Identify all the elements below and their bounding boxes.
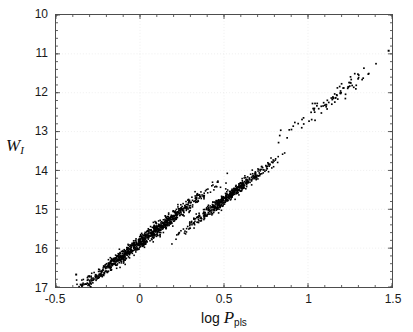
x-tick-label: 0.5	[216, 293, 233, 305]
x-axis-log-prefix: log	[201, 310, 224, 326]
x-tick-label: 1.5	[385, 293, 402, 305]
x-axis-subscript: pls	[234, 317, 247, 328]
y-tick-label: 10	[0, 8, 48, 20]
x-axis-symbol: P	[224, 308, 234, 327]
y-axis-label: WI	[6, 137, 24, 156]
x-axis-label: log Ppls	[201, 309, 247, 328]
y-axis-subscript: I	[20, 144, 24, 156]
x-tick-label: -0.5	[45, 293, 66, 305]
y-tick-label: 15	[0, 204, 48, 216]
data-points-layer	[56, 15, 392, 287]
plot-axes-box	[55, 14, 393, 288]
x-tick-label: 0	[136, 293, 143, 305]
y-tick-label: 11	[0, 47, 48, 59]
scatter-plot-figure: 1011121314151617 -0.500.511.5 WI log Ppl…	[0, 0, 413, 332]
y-tick-label: 12	[0, 86, 48, 98]
y-tick-label: 14	[0, 165, 48, 177]
y-axis-symbol: W	[6, 136, 20, 155]
x-tick-label: 1	[305, 293, 312, 305]
y-tick-label: 16	[0, 243, 48, 255]
y-tick-label: 17	[0, 282, 48, 294]
